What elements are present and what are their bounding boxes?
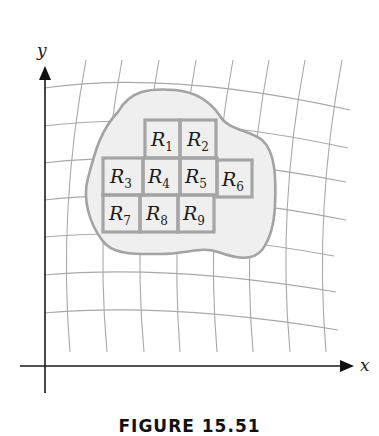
figure-caption: FIGURE 15.51 <box>0 416 379 436</box>
y-axis-arrow-icon <box>39 66 51 80</box>
y-axis-label: y <box>36 40 47 60</box>
x-axis-label: x <box>360 355 370 375</box>
x-axis-arrow-icon <box>340 360 354 372</box>
